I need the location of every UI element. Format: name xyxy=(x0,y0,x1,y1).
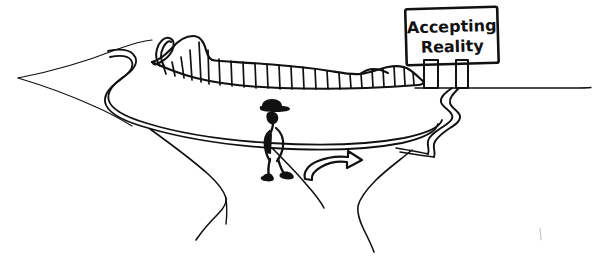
walking-figure xyxy=(260,99,294,181)
stray-mark xyxy=(540,228,541,240)
direction-arrow xyxy=(305,151,362,180)
accepting-reality-sign[interactable]: Accepting Reality xyxy=(405,7,499,88)
illustration-canvas: Accepting Reality xyxy=(0,0,609,256)
sign-line-2: Reality xyxy=(420,36,484,57)
hat-icon xyxy=(260,99,290,112)
horizon-line xyxy=(18,40,591,88)
sign-line-1: Accepting xyxy=(407,16,497,37)
winding-path xyxy=(396,88,460,157)
hedgerow xyxy=(152,36,424,89)
scene-svg: Accepting Reality xyxy=(0,0,609,256)
road xyxy=(18,50,442,252)
